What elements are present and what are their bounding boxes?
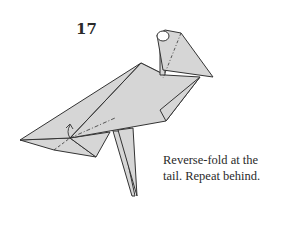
head-crest xyxy=(157,31,169,41)
leg-front xyxy=(118,128,137,196)
instruction-text: Reverse-fold at the tail. Repeat behind. xyxy=(163,152,260,184)
instruction-line-1: Reverse-fold at the xyxy=(163,152,260,168)
instruction-line-2: tail. Repeat behind. xyxy=(163,168,260,184)
